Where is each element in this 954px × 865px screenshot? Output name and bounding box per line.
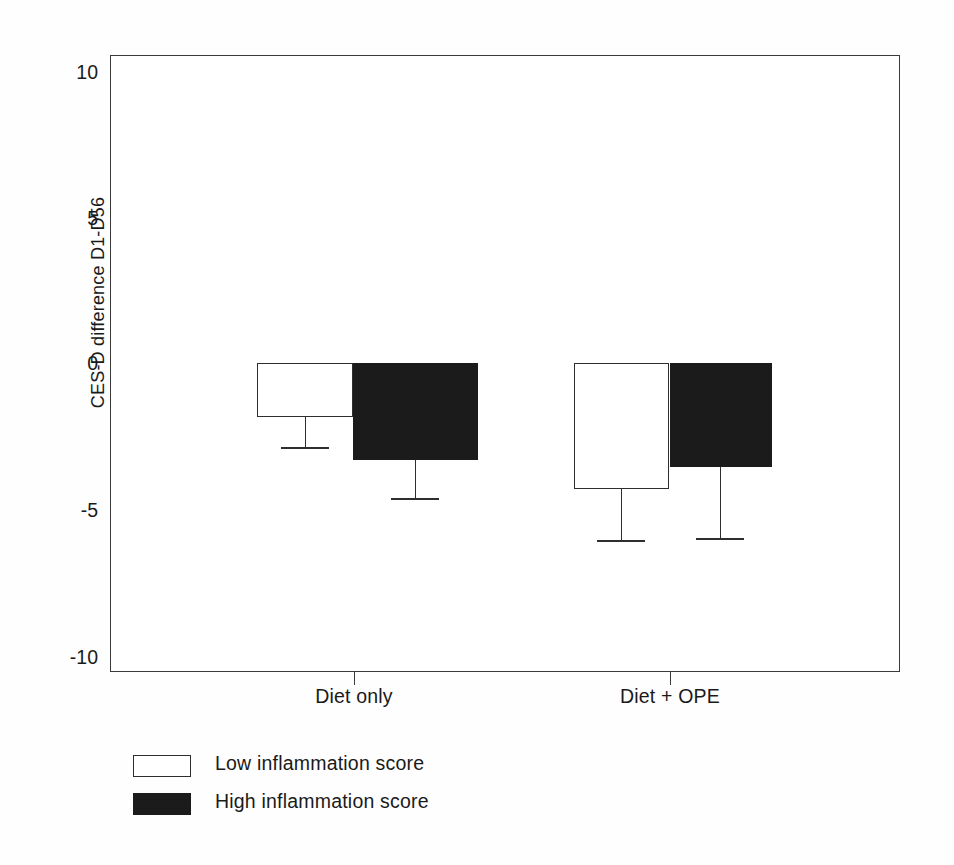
y-tick-label-0: 0 <box>38 352 98 375</box>
error-bar-cap-diet-only-low <box>281 447 329 449</box>
x-tick-label-diet-only: Diet only <box>244 685 464 708</box>
error-bar-stem-diet-only-high <box>415 460 416 498</box>
bar-diet-ope-low-inflammation <box>574 363 669 489</box>
legend-label-low-inflammation: Low inflammation score <box>215 752 424 775</box>
x-tick-diet-ope <box>670 672 671 685</box>
legend-label-high-inflammation: High inflammation score <box>215 790 429 813</box>
legend-item-high-inflammation: High inflammation score <box>133 790 553 828</box>
error-bar-cap-diet-ope-high <box>696 538 744 540</box>
y-tick-label-10: 10 <box>38 61 98 84</box>
plot-area <box>110 55 900 672</box>
bar-diet-ope-high-inflammation <box>670 363 772 467</box>
error-bar-stem-diet-only-low <box>305 417 306 447</box>
y-tick-label-5: 5 <box>38 207 98 230</box>
bar-diet-only-low-inflammation <box>257 363 353 417</box>
chart-figure: CES-D difference D1-D56 10 5 0 -5 -10 Di… <box>0 0 954 865</box>
x-tick-label-diet-ope: Diet + OPE <box>560 685 780 708</box>
legend-item-low-inflammation: Low inflammation score <box>133 752 553 790</box>
legend-swatch-high-inflammation <box>133 793 191 815</box>
x-tick-diet-only <box>354 672 355 685</box>
error-bar-stem-diet-ope-high <box>720 467 721 538</box>
y-tick-label-minus5: -5 <box>38 499 98 522</box>
bar-diet-only-high-inflammation <box>353 363 478 460</box>
error-bar-cap-diet-only-high <box>391 498 439 500</box>
y-axis-title: CES-D difference D1-D56 <box>88 143 109 463</box>
legend-swatch-low-inflammation <box>133 755 191 777</box>
error-bar-stem-diet-ope-low <box>621 489 622 540</box>
chart-legend: Low inflammation score High inflammation… <box>133 752 553 828</box>
error-bar-cap-diet-ope-low <box>597 540 645 542</box>
y-tick-label-minus10: -10 <box>38 646 98 669</box>
